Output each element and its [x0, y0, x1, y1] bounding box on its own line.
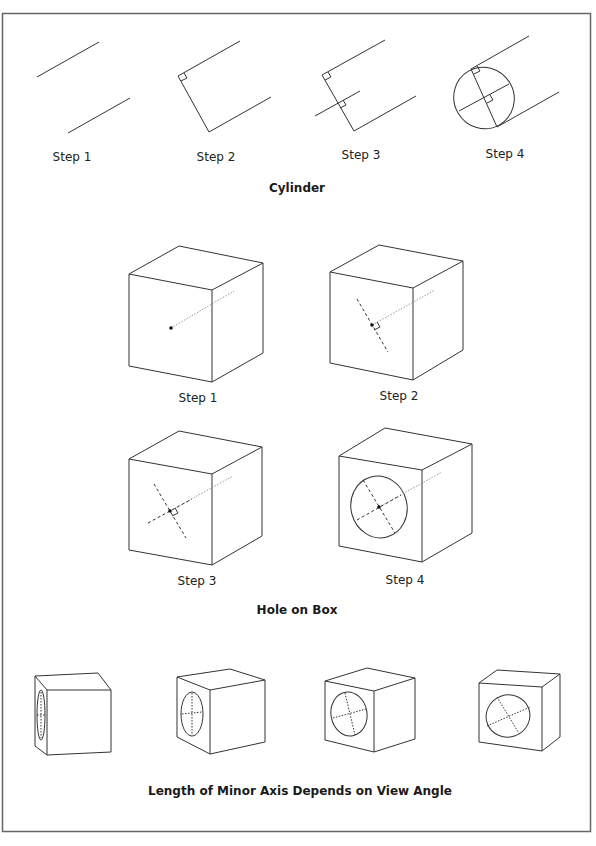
diagram-page: Step 1 Step 2 Step 3 Step 4 Cylinder Ste… [0, 0, 596, 846]
cylinder-step4-drawing [443, 36, 559, 140]
page-frame [3, 14, 591, 832]
diagram-canvas [0, 0, 596, 846]
box-step4-drawing [339, 428, 472, 562]
view-angle-cube-2 [177, 669, 265, 754]
cylinder-step3-drawing [315, 40, 416, 131]
box-step3-drawing [129, 431, 262, 565]
box-step1-drawing [129, 246, 263, 382]
cylinder-step1-drawing [37, 42, 130, 133]
cylinder-step2-drawing [178, 41, 271, 132]
view-angle-cube-4 [479, 670, 560, 751]
box-step1-label: Step 1 [179, 391, 218, 405]
box-step2-drawing [330, 245, 463, 380]
cylinder-title: Cylinder [269, 181, 325, 195]
cylinder-step3-label: Step 3 [342, 148, 381, 162]
hole-on-box-title: Hole on Box [257, 603, 338, 617]
view-angle-cube-1 [35, 673, 111, 755]
box-step4-label: Step 4 [386, 573, 425, 587]
box-step3-label: Step 3 [178, 574, 217, 588]
view-angle-title: Length of Minor Axis Depends on View Ang… [148, 784, 452, 798]
cylinder-step1-label: Step 1 [53, 150, 92, 164]
cylinder-step2-label: Step 2 [197, 150, 236, 164]
view-angle-cube-3 [325, 668, 415, 752]
box-step2-label: Step 2 [380, 389, 419, 403]
cylinder-step4-label: Step 4 [486, 147, 525, 161]
